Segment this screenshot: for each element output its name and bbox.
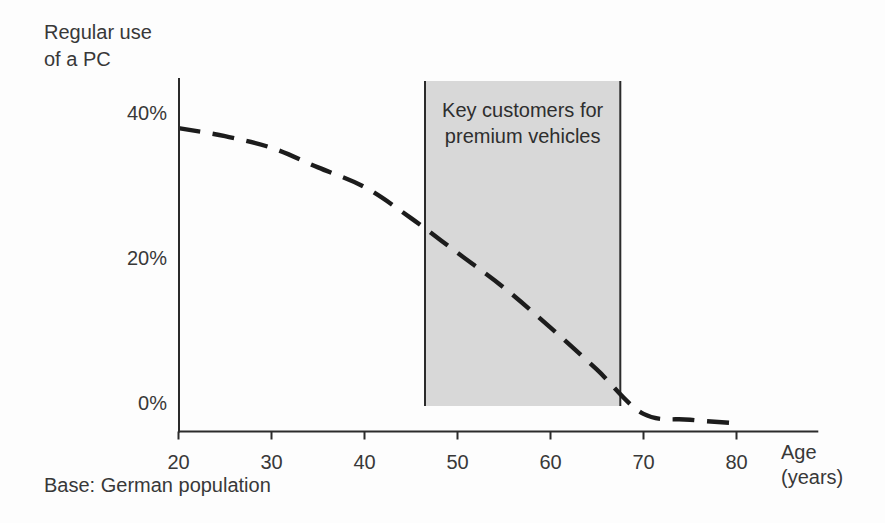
y-axis-title: Regular use of a PC: [44, 19, 152, 73]
x-tick-label: 30: [260, 451, 282, 473]
x-tick-label: 70: [632, 451, 654, 473]
base-note: Base: German population: [44, 473, 271, 497]
chart-figure: 2030405060708040%20%0% Regular use of a …: [0, 0, 885, 523]
highlight-band-label: Key customers for premium vehicles: [425, 97, 620, 149]
y-tick-label: 40%: [127, 102, 167, 124]
chart-canvas: 2030405060708040%20%0%: [0, 0, 885, 523]
y-tick-label: 20%: [127, 247, 167, 269]
x-tick-label: 40: [353, 451, 375, 473]
x-tick-label: 20: [167, 451, 189, 473]
y-tick-label: 0%: [138, 392, 167, 414]
x-tick-label: 50: [446, 451, 468, 473]
x-tick-label: 80: [725, 451, 747, 473]
x-axis-title: Age (years): [781, 440, 843, 490]
x-tick-label: 60: [539, 451, 561, 473]
